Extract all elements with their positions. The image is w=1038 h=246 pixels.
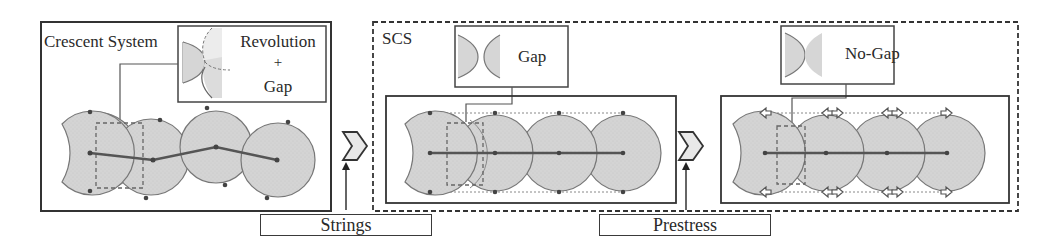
inset-revolution-label: Revolution xyxy=(233,33,323,50)
no-gap-label: No-Gap xyxy=(845,45,900,62)
inset-plus-label: + xyxy=(233,55,323,70)
scs-panel xyxy=(373,22,1018,211)
scs-title: SCS xyxy=(382,30,412,47)
gap-label: Gap xyxy=(518,48,546,65)
strings-step-label: Strings xyxy=(260,214,432,236)
inset-gap-label: Gap xyxy=(233,78,323,95)
prestress-step-label: Prestress xyxy=(599,214,771,236)
chevron-arrow-icon xyxy=(342,132,367,210)
crescent-system-title: Crescent System xyxy=(44,33,158,50)
chevron-arrow-icon xyxy=(679,132,703,210)
